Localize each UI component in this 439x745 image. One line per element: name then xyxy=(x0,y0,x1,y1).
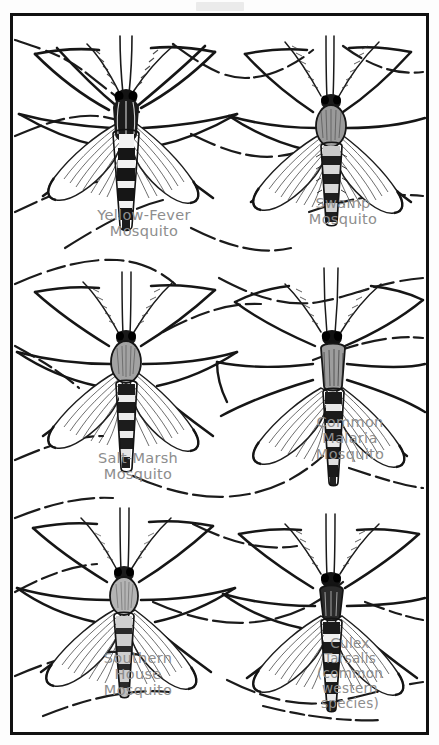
mosquito-artwork xyxy=(13,16,426,732)
plate-border: Yellow-Fever Mosquito Swamp Mosquito Sal… xyxy=(10,13,429,735)
watermark-smudge xyxy=(196,2,244,11)
artwork-canvas xyxy=(13,16,426,732)
illustration-plate: Yellow-Fever Mosquito Swamp Mosquito Sal… xyxy=(0,0,439,745)
